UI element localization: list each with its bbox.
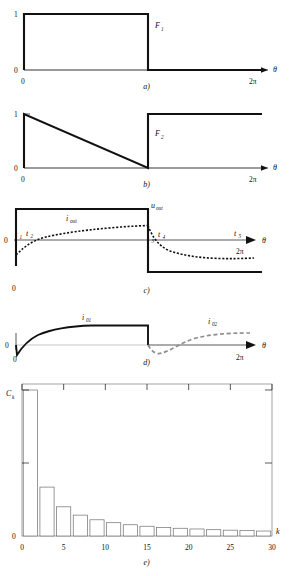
panel-c-current-label: i out <box>66 214 77 224</box>
panel-b-caption: b) <box>0 180 293 189</box>
panel-e: 051015202530 C k 0 k e) <box>0 372 293 576</box>
spectrum-bar <box>157 527 171 536</box>
panel-d-current2-curve <box>148 333 250 354</box>
panel-c-t1-sub: 1 <box>20 234 23 240</box>
panel-a-signal-sub: 1 <box>161 26 164 32</box>
panel-c-voltage-label: u out <box>151 201 163 211</box>
panel-d-current2-label: i 02 <box>208 317 218 327</box>
panel-a-theta-label: θ <box>273 65 277 74</box>
spectrum-bar <box>107 523 121 536</box>
spectrum-bar <box>57 507 71 536</box>
panel-b-waveform-riser <box>24 114 262 168</box>
spectrum-y-ticks <box>22 390 272 463</box>
panel-c-t2-sub: 2 <box>31 233 34 239</box>
panel-d-zero-left: 0 <box>5 341 9 350</box>
panel-c-zero-left: 0 <box>4 236 8 245</box>
spectrum-bar <box>190 529 204 536</box>
panel-d-theta-label: θ <box>262 341 266 350</box>
panel-e-caption: e) <box>0 558 293 567</box>
panel-c-current-letter: i <box>66 214 68 223</box>
spectrum-bars <box>23 390 271 536</box>
spectrum-y-zero: 0 <box>12 532 16 541</box>
panel-c-voltage-sub: out <box>156 205 163 211</box>
panel-d-caption: d) <box>0 358 293 367</box>
spectrum-bar <box>240 531 254 536</box>
spectrum-x-tick-label: 5 <box>62 543 66 552</box>
spectrum-bar <box>173 528 187 536</box>
panel-a-signal-label: F 1 <box>154 21 164 32</box>
panel-a: 1 0 0 2π θ F 1 a) <box>0 0 293 96</box>
panel-b-signal-label: F 2 <box>154 129 164 140</box>
panel-b-ytick-1: 1 <box>14 110 18 119</box>
panel-c: 0 0 2π θ u out i out t 1 t 2 t 3 t 4 t 5… <box>0 196 293 300</box>
spectrum-x-tick-label: 10 <box>102 543 110 552</box>
spectrum-bar <box>123 525 137 536</box>
spectrum-bar <box>73 515 87 536</box>
panel-c-theta-label: θ <box>262 236 266 245</box>
panel-c-current-sub: out <box>70 218 77 224</box>
panel-c-voltage-waveform <box>16 209 262 272</box>
panel-b-signal-letter: F <box>154 129 160 138</box>
panel-d-x-arrow <box>246 341 256 349</box>
panel-c-t3-letter: t <box>147 234 150 243</box>
panel-b-x-arrow <box>261 165 268 170</box>
panel-a-waveform <box>24 14 262 70</box>
panel-d: 0 0 2π θ i 01 i 02 d) <box>0 300 293 372</box>
panel-b-ytick-0: 0 <box>14 164 18 173</box>
spectrum-x-tick-label: 15 <box>143 543 151 552</box>
spectrum-bar <box>40 487 54 536</box>
spectrum-bar <box>257 531 271 536</box>
panel-c-t4-letter: t <box>158 230 161 239</box>
spectrum-y-sub: k <box>12 394 15 400</box>
panel-b-signal-sub: 2 <box>161 134 164 140</box>
panel-c-t5-letter: t <box>234 229 237 238</box>
panel-c-t2-letter: t <box>26 229 29 238</box>
panel-d-current1-label: i 01 <box>82 313 92 323</box>
panel-b-theta-label: θ <box>273 163 277 172</box>
spectrum-bar <box>90 520 104 536</box>
spectrum-y-label: C k <box>6 389 15 400</box>
panel-c-time-mark-t1: t 1 <box>15 230 23 240</box>
panel-d-current1-curve <box>16 326 148 356</box>
panel-c-t4-sub: 4 <box>163 234 166 240</box>
spectrum-bar <box>207 530 221 536</box>
spectrum-x-tick-label: 20 <box>185 543 193 552</box>
spectrum-x-tick-label: 0 <box>20 543 24 552</box>
panel-d-current1-sub: 01 <box>86 317 92 323</box>
panel-c-xend: 2π <box>236 247 244 256</box>
panel-c-voltage-letter: u <box>151 201 155 210</box>
panel-c-t5-sub: 5 <box>239 233 242 239</box>
spectrum-x-tick-label: 30 <box>268 543 276 552</box>
spectrum-x-tick-label: 25 <box>227 543 235 552</box>
panel-c-time-mark-t2: t 2 <box>26 229 34 239</box>
panel-a-ytick-1: 1 <box>14 10 18 19</box>
panel-c-x-arrow <box>246 236 256 244</box>
panel-c-t3-sub: 3 <box>152 238 155 244</box>
panel-a-x-arrow <box>261 67 268 72</box>
panel-d-current1-letter: i <box>82 313 84 322</box>
panel-d-current2-letter: i <box>208 317 210 326</box>
panel-a-ytick-0: 0 <box>14 66 18 75</box>
spectrum-x-label: k <box>276 527 280 536</box>
panel-a-caption: a) <box>0 82 293 91</box>
panel-c-time-mark-t4: t 4 <box>158 230 166 240</box>
panel-c-caption: c) <box>0 286 293 295</box>
spectrum-bar <box>140 526 154 536</box>
spectrum-bar <box>223 530 237 536</box>
panel-d-current2-sub: 02 <box>212 321 218 327</box>
panel-c-t1-letter: t <box>15 230 18 239</box>
panel-b: 1 0 0 2π θ F 2 b) <box>0 96 293 196</box>
panel-c-time-mark-t5: t 5 <box>234 229 242 239</box>
panel-a-signal-letter: F <box>154 21 160 30</box>
